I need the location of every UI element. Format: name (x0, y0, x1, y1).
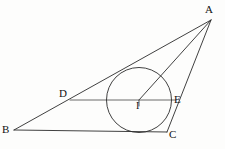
segment-ca (167, 20, 211, 132)
vertex-label-c: C (169, 129, 176, 140)
vertex-label-a: A (205, 4, 213, 15)
vertex-label-d: D (59, 88, 67, 99)
vertex-label-b: B (2, 124, 9, 135)
geometry-figure: A B C D E I (0, 0, 225, 149)
segment-ai (139, 20, 211, 100)
diagram-canvas (0, 0, 225, 149)
segment-ab (14, 20, 211, 130)
vertex-label-e: E (174, 94, 181, 105)
incenter-label-i: I (136, 101, 139, 111)
